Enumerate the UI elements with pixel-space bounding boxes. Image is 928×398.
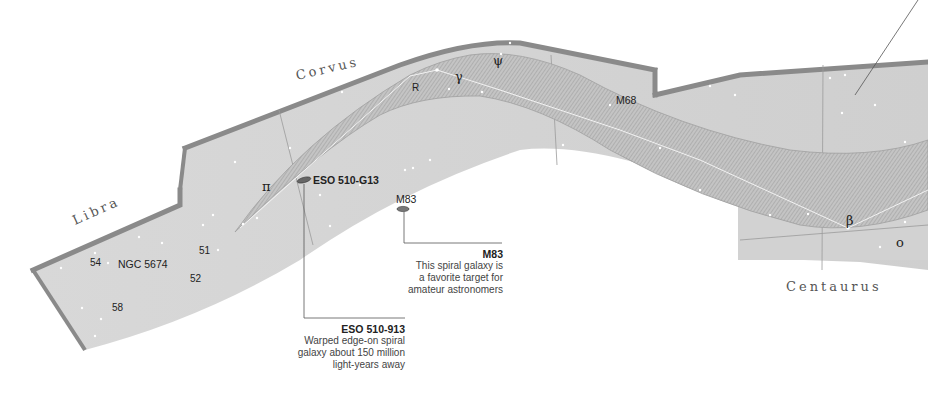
callout-eso-title: ESO 510-913 <box>285 323 405 335</box>
galaxy-label-ngc5674: NGC 5674 <box>118 258 168 270</box>
object-label-m68: M68 <box>616 94 637 106</box>
callout-eso-line: galaxy about 150 million <box>285 347 405 359</box>
star-label-psi: ψ <box>493 53 503 68</box>
constellation-label-corvus: Corvus <box>294 54 360 83</box>
object-label-eso: ESO 510-G13 <box>313 174 379 186</box>
callout-m83-title: M83 <box>398 248 503 260</box>
star-label-51: 51 <box>199 245 211 256</box>
callout-m83-line: amateur astronomers <box>398 284 503 296</box>
object-label-m83: M83 <box>396 193 417 205</box>
star-label-54: 54 <box>90 257 102 268</box>
star-label-beta: β <box>846 213 854 228</box>
star-label-pi: π <box>262 179 271 194</box>
constellation-label-libra: Libra <box>70 194 122 228</box>
callout-eso: ESO 510-913 Warped edge-on spiral galaxy… <box>285 323 405 371</box>
star-label-omicron: o <box>896 235 904 250</box>
constellation-label-centaurus: Centaurus <box>786 279 882 294</box>
callout-eso-line: light-years away <box>285 359 405 371</box>
star-label-r: R <box>412 82 419 93</box>
star-label-58: 58 <box>112 302 124 313</box>
callout-m83-line: This spiral galaxy is <box>398 260 503 272</box>
callout-eso-line: Warped edge-on spiral <box>285 335 405 347</box>
star-chart: Libra Corvus Centaurus 54 NGC 5674 51 52… <box>0 0 928 398</box>
star-label-gamma: γ <box>455 69 463 84</box>
callout-m83-line: a favorite target for <box>398 272 503 284</box>
star-label-52: 52 <box>190 273 202 284</box>
callout-m83: M83 This spiral galaxy is a favorite tar… <box>398 248 503 296</box>
galaxy-icon-m83 <box>397 206 409 211</box>
